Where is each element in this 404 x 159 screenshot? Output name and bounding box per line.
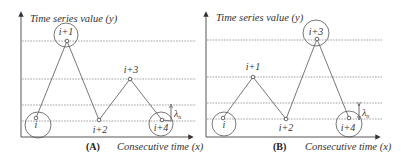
panel-tag: (A) bbox=[86, 141, 100, 153]
data-point bbox=[97, 118, 101, 122]
panel-a: λn i i+1 i+2 i+3 i+4 Time series value (… bbox=[21, 13, 204, 153]
panel-b: λn i i+1 i+2 i+3 i+4 Time series value (… bbox=[206, 12, 392, 153]
data-point bbox=[128, 77, 132, 81]
y-axis-label: Time series value (y) bbox=[216, 12, 304, 24]
data-point bbox=[251, 75, 255, 79]
point-label: i+4 bbox=[154, 122, 169, 133]
x-axis-label: Consecutive time (x) bbox=[305, 141, 392, 153]
point-label: i+3 bbox=[309, 26, 324, 37]
lambda-label: λn bbox=[173, 108, 181, 120]
point-label: i+1 bbox=[246, 61, 261, 72]
point-label: i bbox=[223, 119, 226, 130]
series-line bbox=[36, 41, 171, 121]
point-label: i+4 bbox=[341, 122, 356, 133]
point-label: i+3 bbox=[124, 64, 139, 75]
series-line bbox=[223, 39, 349, 119]
data-point bbox=[347, 116, 351, 120]
highlight-circle bbox=[25, 112, 51, 138]
lambda-label: λn bbox=[361, 107, 369, 119]
data-point bbox=[284, 117, 288, 121]
diagram-canvas: λn i i+1 i+2 i+3 i+4 Time series value (… bbox=[0, 0, 404, 159]
y-axis-label: Time series value (y) bbox=[30, 13, 118, 25]
panel-tag: (B) bbox=[273, 141, 286, 153]
point-label: i+2 bbox=[93, 124, 108, 135]
data-point bbox=[315, 37, 319, 41]
data-point bbox=[65, 39, 69, 43]
point-label: i+2 bbox=[279, 122, 294, 133]
point-label: i+1 bbox=[59, 26, 74, 37]
point-label: i bbox=[35, 119, 38, 130]
x-axis-label: Consecutive time (x) bbox=[117, 141, 204, 153]
